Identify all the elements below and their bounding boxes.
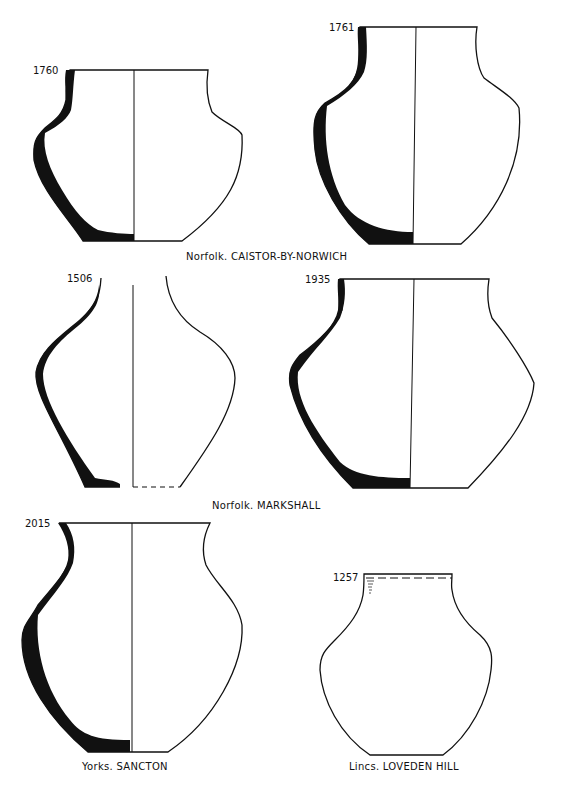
vessel-number-1761: 1761	[329, 22, 354, 33]
pottery-plate	[0, 0, 567, 796]
vessel-1935-drawing	[289, 279, 534, 488]
vessel-2015-drawing	[22, 523, 242, 752]
caption-caistor-by-norwich: Norfolk. CAISTOR-BY-NORWICH	[186, 251, 347, 262]
vessel-number-2015: 2015	[25, 518, 50, 529]
vessel-number-1760: 1760	[33, 65, 58, 76]
vessel-1761-drawing	[314, 27, 520, 244]
caption-markshall: Norfolk. MARKSHALL	[212, 500, 321, 511]
caption-loveden-hill: Lincs. LOVEDEN HILL	[349, 761, 459, 772]
vessel-number-1257: 1257	[333, 572, 358, 583]
caption-sancton: Yorks. SANCTON	[82, 761, 168, 772]
vessel-number-1506: 1506	[67, 273, 92, 284]
vessel-number-1935: 1935	[305, 274, 330, 285]
vessel-1506-drawing	[36, 276, 235, 487]
vessel-1257-drawing	[320, 574, 492, 755]
vessel-1760-drawing	[34, 70, 242, 241]
